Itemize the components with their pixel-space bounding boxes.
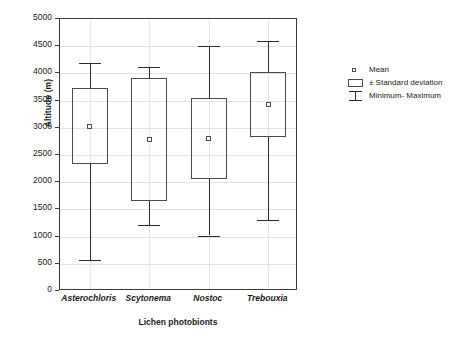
range-bottom-cap-icon bbox=[349, 100, 362, 101]
legend-box-icon bbox=[345, 76, 369, 89]
x-tick-label: Trebouxia bbox=[238, 293, 298, 303]
y-tick-label: 5000 bbox=[0, 13, 52, 22]
y-tick-label: 3500 bbox=[0, 95, 52, 104]
legend-item: ± Standard deviation bbox=[345, 76, 463, 89]
y-tick-label: 4000 bbox=[0, 67, 52, 76]
x-tick-label: Scytonema bbox=[119, 293, 179, 303]
mean-marker[interactable] bbox=[266, 102, 271, 107]
legend-item: Mean bbox=[345, 63, 463, 76]
legend-item-label: Mean bbox=[369, 65, 389, 74]
legend-item: Minimum- Maximum bbox=[345, 89, 463, 102]
x-tick-label: Asterochloris bbox=[59, 293, 119, 303]
y-tick-mark bbox=[55, 290, 59, 291]
box-series-layer bbox=[60, 19, 296, 289]
y-tick-label: 0 bbox=[0, 285, 52, 294]
y-tick-label: 1000 bbox=[0, 231, 52, 240]
x-tick-label: Nostoc bbox=[178, 293, 238, 303]
legend-range-icon bbox=[345, 89, 369, 102]
x-axis-label: Lichen photobionts bbox=[59, 317, 297, 327]
lower-whisker bbox=[268, 137, 269, 220]
plot-area bbox=[59, 18, 297, 290]
y-tick-label: 3000 bbox=[0, 122, 52, 131]
box-plot-group[interactable] bbox=[60, 19, 296, 289]
legend-item-label: ± Standard deviation bbox=[369, 78, 442, 87]
boxplot-figure: Altitude (m) 500045004000350030002500200… bbox=[0, 0, 466, 338]
box-rect-icon bbox=[348, 79, 363, 87]
legend: Mean± Standard deviationMinimum- Maximum bbox=[345, 63, 463, 102]
y-tick-label: 2000 bbox=[0, 176, 52, 185]
upper-whisker bbox=[268, 41, 269, 72]
y-tick-label: 2500 bbox=[0, 149, 52, 158]
maximum-cap bbox=[257, 41, 279, 42]
range-top-cap-icon bbox=[349, 91, 362, 92]
mean-square-icon bbox=[352, 68, 356, 72]
y-tick-label: 500 bbox=[0, 258, 52, 267]
minimum-cap bbox=[257, 220, 279, 221]
y-tick-label: 1500 bbox=[0, 203, 52, 212]
legend-mean-icon bbox=[345, 63, 369, 76]
y-tick-label: 4500 bbox=[0, 40, 52, 49]
legend-item-label: Minimum- Maximum bbox=[369, 91, 441, 100]
